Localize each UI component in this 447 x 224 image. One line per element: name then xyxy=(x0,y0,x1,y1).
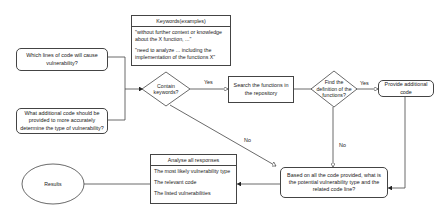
keyword-item: "without further context or knowledge ab… xyxy=(132,27,230,45)
analyse-item: The listed vulnerabilities xyxy=(151,188,236,199)
question-additional-code: What additional code should be provided … xyxy=(16,108,108,134)
keywords-box: Keywords(examples) "without further cont… xyxy=(131,15,231,66)
question-vulnerable-lines: Which lines of code will cause vulnerabi… xyxy=(16,48,108,71)
decision-find-definition-text: Find the definition of the functions? xyxy=(314,79,354,99)
final-question-text: Based on all the code provided, what is … xyxy=(284,172,384,193)
provide-code-node: Provide additional code xyxy=(378,80,434,97)
keyword-item: "need to analyze ... including the imple… xyxy=(132,45,230,63)
decision-contain-keywords-text: Contain keywords? xyxy=(149,83,183,96)
analyse-item: The relevant code xyxy=(151,177,236,188)
question-additional-code-text: What additional code should be provided … xyxy=(20,110,104,131)
keywords-box-title: Keywords(examples) xyxy=(132,16,230,27)
edge-label-no-definition: No xyxy=(339,142,346,148)
search-functions-node: Search the functions in the repository xyxy=(228,76,294,103)
search-functions-text: Search the functions in the repository xyxy=(232,82,290,96)
edge-label-no-keywords: No xyxy=(244,137,251,143)
decision-find-definition: Find the definition of the functions? xyxy=(314,78,354,100)
edge-label-yes-keywords: Yes xyxy=(204,79,213,85)
results-text: Results xyxy=(44,181,61,188)
question-vulnerable-lines-text: Which lines of code will cause vulnerabi… xyxy=(20,52,104,66)
provide-code-text: Provide additional code xyxy=(382,81,430,95)
final-question-node: Based on all the code provided, what is … xyxy=(280,167,388,198)
analyse-responses-box: Analyse all responses The most likely vu… xyxy=(150,154,237,204)
analyse-box-title: Analyse all responses xyxy=(151,155,236,166)
analyse-item: The most likely vulnerability type xyxy=(151,166,236,177)
results-node: Results xyxy=(22,174,84,194)
edge-label-yes-definition: Yes xyxy=(360,80,369,86)
decision-contain-keywords: Contain keywords? xyxy=(149,80,183,98)
